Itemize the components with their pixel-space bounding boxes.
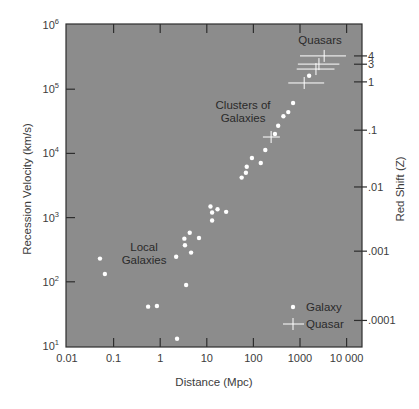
galaxy-point (189, 250, 193, 254)
x-tick-label: 100 (244, 352, 262, 364)
x-tick-label: 1000 (288, 352, 312, 364)
right-tick-label: .1 (368, 124, 377, 136)
galaxy-point (208, 204, 212, 208)
galaxy-point (175, 336, 179, 340)
galaxy-point (291, 101, 295, 105)
galaxy-point (286, 110, 290, 114)
hubble-diagram-chart: 0.010.1110100100010 000 1011021031041051… (0, 0, 419, 409)
x-tick-label: 10 000 (330, 352, 364, 364)
x-tick-label: 10 (201, 352, 213, 364)
right-tick-label: 3 (368, 58, 374, 70)
annotation-label: Clusters ofGalaxies (216, 99, 272, 124)
galaxy-point (184, 283, 188, 287)
plot-area (66, 24, 362, 347)
y-tick-label: 101 (43, 338, 59, 352)
galaxy-point (174, 255, 178, 259)
galaxy-point (244, 171, 248, 175)
right-tick-label: .001 (368, 245, 389, 257)
galaxy-point (224, 210, 228, 214)
right-axis-title: Red Shift (Z) (394, 156, 406, 221)
x-tick-label: 1 (157, 352, 163, 364)
galaxy-point (197, 236, 201, 240)
galaxy-point (182, 236, 186, 240)
galaxy-legend-label: Galaxy (306, 301, 342, 313)
right-tick-label: .01 (368, 181, 383, 193)
galaxy-point (210, 218, 214, 222)
galaxy-point (259, 161, 263, 165)
y-tick-label: 106 (43, 17, 59, 31)
annotation-label: Quasars (298, 34, 342, 46)
right-axis-tick-labels: 431.1.01.001.0001 (368, 50, 396, 327)
galaxy-point (103, 272, 107, 276)
x-tick-label: 0.1 (106, 352, 121, 364)
right-tick-label: 1 (368, 76, 374, 88)
galaxy-point (98, 256, 102, 260)
galaxy-point (146, 304, 150, 308)
y-tick-label: 105 (43, 81, 59, 95)
x-axis-title: Distance (Mpc) (175, 376, 252, 388)
galaxy-point (281, 114, 285, 118)
galaxy-point (155, 304, 159, 308)
quasar-legend-label: Quasar (306, 318, 344, 330)
galaxy-point (245, 165, 249, 169)
galaxy-point (276, 124, 280, 128)
x-axis-tick-labels: 0.010.1110100100010 000 (56, 352, 363, 364)
galaxy-point (239, 175, 243, 179)
galaxy-point (273, 132, 277, 136)
y-tick-label: 104 (43, 145, 59, 159)
galaxy-point (210, 210, 214, 214)
y-axis-title: Recession Velocity (km/s) (21, 123, 33, 255)
y-axis-tick-labels: 101102103104105106 (43, 17, 59, 352)
y-tick-label: 102 (43, 274, 59, 288)
galaxy-point (188, 231, 192, 235)
galaxy-point (250, 156, 254, 160)
galaxy-point (183, 243, 187, 247)
galaxy-point (307, 74, 311, 78)
galaxy-point (215, 207, 219, 211)
y-tick-label: 103 (43, 210, 59, 224)
galaxy-legend-marker (291, 305, 295, 309)
right-tick-label: .0001 (368, 314, 396, 326)
x-tick-label: 0.01 (56, 352, 77, 364)
galaxy-point (263, 148, 267, 152)
